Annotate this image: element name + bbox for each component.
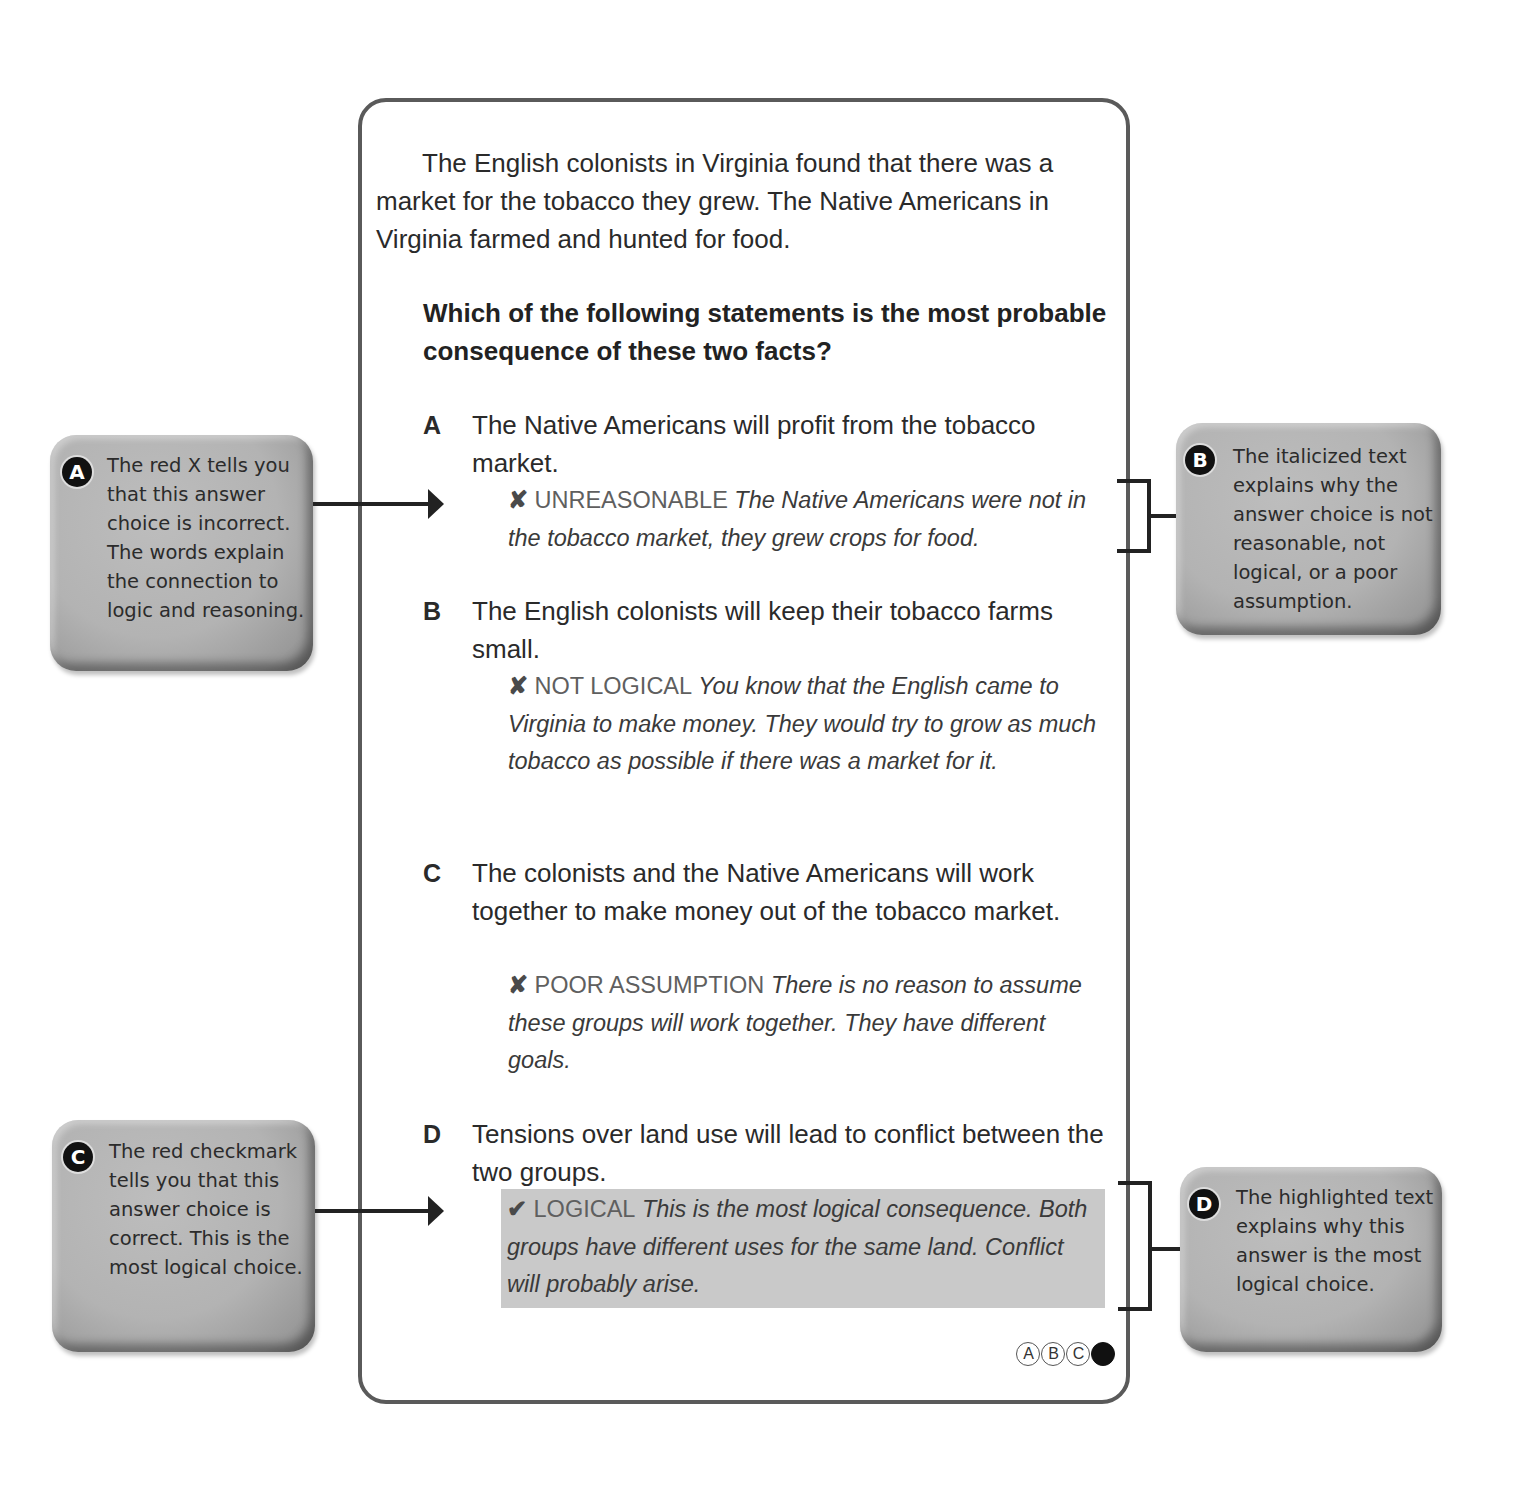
callout-b: B The italicized text explains why the a…	[1176, 423, 1441, 635]
bracket-stem-d	[1152, 1247, 1180, 1251]
option-letter: C	[423, 854, 441, 892]
bracket-bottom-d	[1118, 1307, 1152, 1311]
bracket-top-b	[1117, 479, 1151, 483]
option-text: Tensions over land use will lead to conf…	[472, 1115, 1112, 1191]
answer-bubble-b[interactable]: B	[1041, 1342, 1065, 1366]
callout-c: C The red checkmark tells you that this …	[52, 1120, 315, 1352]
explanation-unreasonable: ✘ UNREASONABLE The Native Americans were…	[504, 482, 1110, 557]
bracket-top-d	[1118, 1181, 1152, 1185]
callout-a: A The red X tells you that this answer c…	[50, 435, 313, 671]
x-mark-icon: ✘	[508, 972, 528, 998]
explanation-tag: LOGICAL	[534, 1196, 636, 1222]
x-mark-icon: ✘	[508, 673, 528, 699]
callout-badge-a: A	[62, 457, 92, 487]
option-text: The English colonists will keep their to…	[472, 592, 1112, 668]
option-letter: A	[423, 406, 441, 444]
bracket-bottom-b	[1117, 549, 1151, 553]
explanation-tag: UNREASONABLE	[535, 487, 728, 513]
question-prompt: Which of the following statements is the…	[423, 294, 1113, 370]
callout-text: The italicized text explains why the ans…	[1233, 442, 1433, 616]
callout-text: The red checkmark tells you that this an…	[109, 1137, 309, 1282]
explanation-tag: POOR ASSUMPTION	[535, 972, 765, 998]
callout-badge-d: D	[1189, 1189, 1219, 1219]
callout-badge-c: C	[63, 1142, 93, 1172]
x-mark-icon: ✘	[508, 487, 528, 513]
answer-bubble-c[interactable]: C	[1066, 1342, 1090, 1366]
option-letter: D	[423, 1115, 441, 1153]
option-text: The Native Americans will profit from th…	[472, 406, 1112, 482]
arrow-right-icon	[428, 489, 444, 519]
answer-bubble-a[interactable]: A	[1016, 1342, 1040, 1366]
connector-line-a	[313, 502, 428, 506]
callout-text: The red X tells you that this answer cho…	[107, 451, 307, 625]
option-letter: B	[423, 592, 441, 630]
callout-badge-b: B	[1185, 445, 1215, 475]
option-text: The colonists and the Native Americans w…	[472, 854, 1112, 930]
explanation-poor-assumption: ✘ POOR ASSUMPTION There is no reason to …	[504, 967, 1110, 1080]
connector-line-c	[315, 1209, 428, 1213]
callout-d: D The highlighted text explains why this…	[1180, 1167, 1442, 1352]
answer-bubble-d-filled[interactable]	[1091, 1342, 1115, 1366]
arrow-right-icon	[428, 1196, 444, 1226]
explanation-logical-highlighted: ✔ LOGICAL This is the most logical conse…	[501, 1189, 1105, 1308]
callout-text: The highlighted text explains why this a…	[1236, 1183, 1436, 1299]
explanation-not-logical: ✘ NOT LOGICAL You know that the English …	[504, 668, 1110, 781]
bracket-stem-b	[1151, 514, 1176, 518]
answer-bubbles: ABC	[1016, 1338, 1116, 1366]
explanation-tag: NOT LOGICAL	[535, 673, 693, 699]
checkmark-icon: ✔	[507, 1196, 527, 1222]
passage-text: The English colonists in Virginia found …	[376, 144, 1096, 258]
bracket-side-d	[1148, 1181, 1152, 1311]
